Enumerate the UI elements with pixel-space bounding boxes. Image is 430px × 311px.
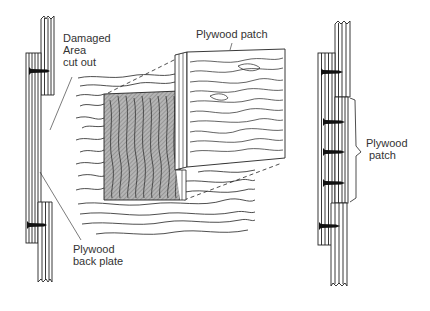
label-line: Plywood [73,243,123,255]
label-line: Plywood [366,137,408,149]
label-line: patch [366,149,408,161]
label-line: Damaged [63,32,111,44]
curly-bracket-icon [350,98,361,202]
label-line: back plate [73,255,123,267]
diagram-stage: Damaged Area cut out Plywood back plate … [0,0,430,311]
right-cross-section [318,21,361,286]
plywood-patch [175,43,285,170]
label-line: cut out [63,56,111,68]
label-damaged-area: Damaged Area cut out [63,32,111,68]
label-plywood-patch-right: Plywood patch [366,137,408,161]
label-plywood-back-plate: Plywood back plate [73,243,123,267]
label-plywood-patch-center: Plywood patch [196,28,268,40]
label-line: Area [63,44,111,56]
cutout-back-plate [104,91,186,200]
